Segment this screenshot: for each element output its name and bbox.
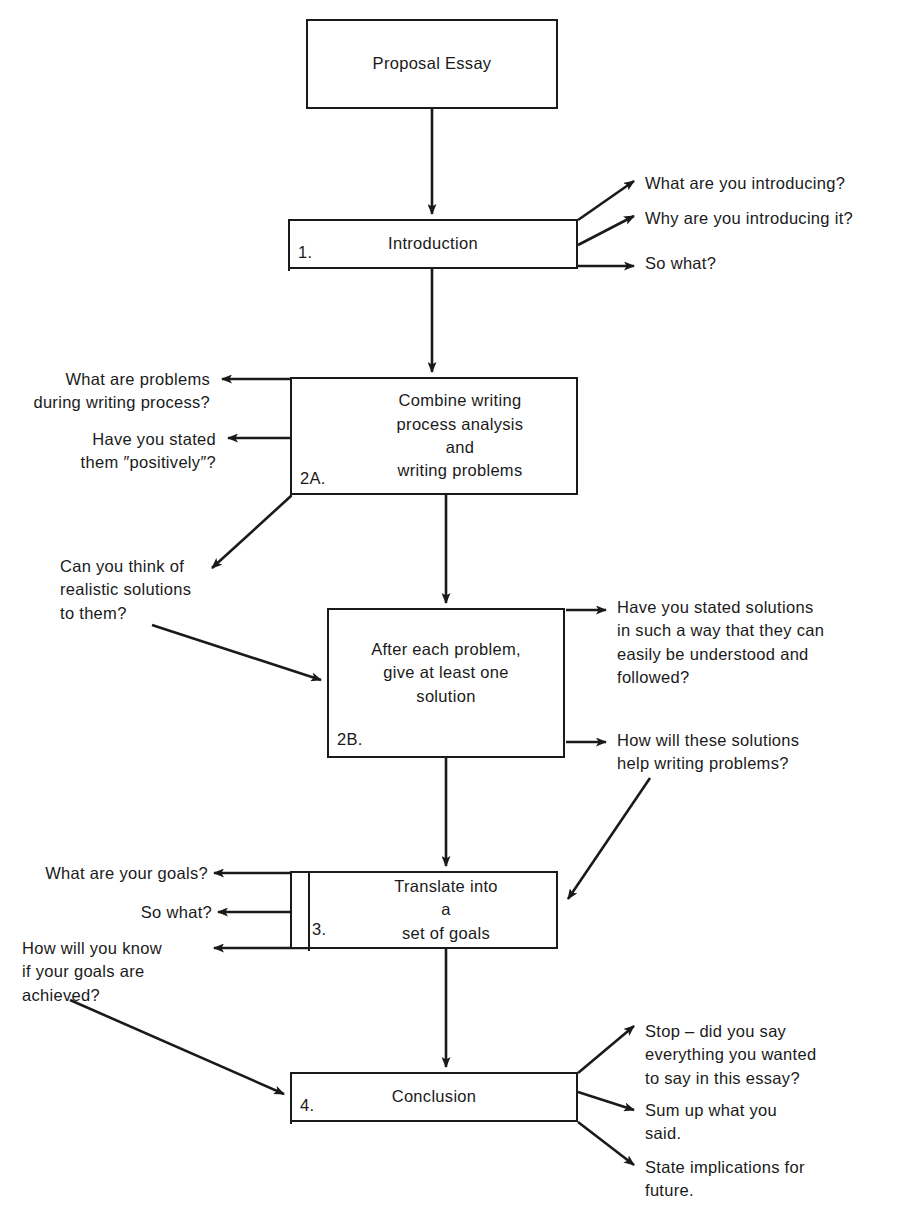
node-label: Combine writing process analysis and wri… [391, 389, 530, 483]
node-proposal-essay[interactable]: Proposal Essay [306, 19, 558, 109]
edge-4-q3 [578, 1122, 634, 1165]
node-label: Conclusion [386, 1085, 483, 1108]
annotation-4-q1: Stop – did you say everything you wanted… [645, 1020, 911, 1090]
annotation-intro-q1: What are you introducing? [645, 172, 845, 195]
node-index: 2A. [300, 470, 326, 487]
edge-q3-to-2b [152, 625, 321, 680]
node-label: Proposal Essay [367, 52, 498, 75]
edge-intro-q2 [578, 216, 634, 245]
annotation-3-q1: What are your goals? [22, 862, 208, 885]
edge-intro-q1 [578, 181, 634, 220]
node-combine-writing[interactable]: Combine writing process analysis and wri… [290, 377, 578, 495]
annotation-intro-q2: Why are you introducing it? [645, 207, 853, 230]
node-translate-goals[interactable]: Translate into a set of goals 3. [290, 871, 558, 949]
node-introduction[interactable]: Introduction 1. [288, 219, 578, 269]
edge-4-q2 [578, 1092, 634, 1110]
annotation-intro-q3: So what? [645, 252, 716, 275]
annotation-3-q2: So what? [22, 901, 212, 924]
annotation-2b-q2: How will these solutions help writing pr… [617, 729, 907, 776]
node-divider [308, 873, 310, 951]
edge-2a-q3 [212, 496, 291, 568]
node-index: 3. [312, 921, 326, 938]
node-label: Translate into a set of goals [388, 875, 504, 945]
edge-4-q1 [578, 1026, 634, 1073]
node-index: 1. [298, 244, 312, 261]
node-index: 4. [300, 1097, 314, 1114]
node-after-each-problem[interactable]: After each problem, give at least one so… [327, 608, 565, 758]
edge-2bq2-to-3 [568, 778, 650, 899]
node-divider [290, 1074, 292, 1124]
annotation-4-q2: Sum up what you said. [645, 1099, 911, 1146]
node-divider [290, 379, 292, 497]
annotation-3-q3: How will you know if your goals are achi… [22, 937, 208, 1007]
node-conclusion[interactable]: Conclusion 4. [290, 1072, 578, 1122]
node-label: After each problem, give at least one so… [365, 638, 527, 708]
node-divider [288, 221, 290, 271]
node-index: 2B. [337, 731, 363, 748]
annotation-2a-q3: Can you think of realistic solutions to … [60, 555, 212, 625]
flowchart-canvas: Proposal Essay Introduction 1. Combine w… [0, 0, 922, 1220]
annotation-2b-q1: Have you stated solutions in such a way … [617, 596, 907, 690]
annotation-2a-q1: What are problems during writing process… [30, 368, 210, 415]
node-label: Introduction [382, 232, 484, 255]
annotation-2a-q2: Have you stated them ″positively″? [40, 428, 216, 475]
annotation-4-q3: State implications for future. [645, 1156, 911, 1203]
edge-3q3-to-conclusion [70, 1000, 284, 1094]
